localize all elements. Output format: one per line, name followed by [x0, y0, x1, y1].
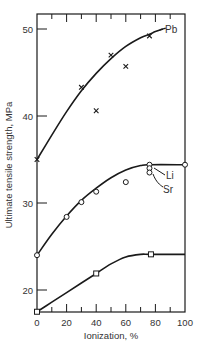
circle-marker-icon	[64, 214, 69, 219]
x-tick-label: 40	[91, 317, 102, 328]
leader-li	[154, 168, 165, 175]
curve-pb	[37, 29, 163, 160]
x-tick-label: 100	[177, 317, 193, 328]
curve-li-sr	[37, 165, 185, 256]
square-marker-icon	[94, 271, 99, 276]
circle-marker-icon	[123, 180, 128, 185]
square-marker-icon	[35, 309, 40, 314]
circle-marker-icon	[147, 170, 152, 175]
x-marker-icon	[124, 64, 129, 69]
x-tick-label: 60	[121, 317, 132, 328]
tensile-strength-chart: 020406080100 20304050 Pb Li Sr Ionizatio…	[0, 0, 199, 352]
x-marker-icon	[94, 108, 99, 113]
x-marker-icon	[79, 85, 84, 90]
y-tick-label: 40	[22, 111, 33, 122]
circle-marker-icon	[35, 253, 40, 258]
label-pb: Pb	[165, 24, 178, 35]
circle-marker-icon	[94, 189, 99, 194]
y-tick-label: 50	[22, 24, 33, 35]
series-markers	[35, 34, 188, 315]
square-marker-icon	[148, 252, 153, 257]
x-tick-label: 80	[150, 317, 161, 328]
label-sr: Sr	[163, 184, 174, 195]
circle-marker-icon	[183, 162, 188, 167]
curve-unlabeled	[37, 254, 185, 312]
label-li: Li	[166, 170, 174, 181]
annotations: Pb Li Sr	[153, 24, 178, 195]
series-curves	[37, 28, 185, 312]
leader-sr	[153, 174, 163, 187]
y-tick-label: 20	[22, 285, 33, 296]
x-tick-label: 0	[34, 317, 39, 328]
y-tick-label: 30	[22, 198, 33, 209]
circle-marker-icon	[79, 200, 84, 205]
x-marker-icon	[109, 53, 114, 58]
x-tick-label: 20	[61, 317, 72, 328]
y-axis-label: Ultimate tensile strength, MPa	[3, 101, 14, 228]
x-axis-label: Ionization, %	[84, 330, 139, 341]
